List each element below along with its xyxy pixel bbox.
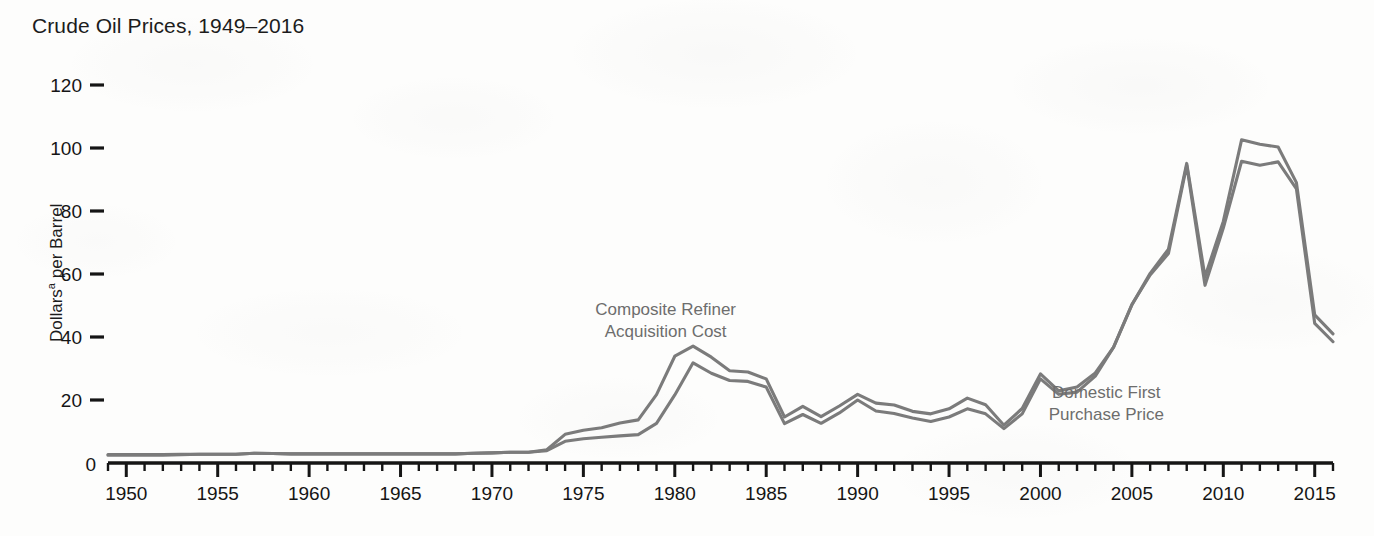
y-tick-label-zero: 0 — [85, 454, 96, 475]
series-annotation-label: Purchase Price — [1049, 405, 1164, 424]
x-tick-label: 1970 — [471, 483, 513, 504]
x-tick-label: 1975 — [562, 483, 604, 504]
y-tick-label: 60 — [61, 264, 82, 285]
y-tick-label: 100 — [50, 138, 82, 159]
x-tick-label: 2000 — [1019, 483, 1061, 504]
x-tick-label: 1980 — [654, 483, 696, 504]
series-annotation-label: Composite Refiner — [595, 300, 736, 319]
y-tick-label: 20 — [61, 390, 82, 411]
x-tick-label: 1955 — [197, 483, 239, 504]
x-tick-label: 2010 — [1202, 483, 1244, 504]
series-annotation-label: Acquisition Cost — [605, 322, 727, 341]
chart-annotations: Composite RefinerAcquisition CostDomesti… — [595, 300, 1164, 424]
x-tick-label: 1995 — [928, 483, 970, 504]
series-annotation-label: Domestic First — [1052, 383, 1161, 402]
y-tick-label: 40 — [61, 327, 82, 348]
x-tick-label: 2005 — [1111, 483, 1153, 504]
x-tick-label: 1965 — [379, 483, 421, 504]
x-tick-label: 1950 — [105, 483, 147, 504]
y-tick-label: 120 — [50, 75, 82, 96]
x-tick-label: 1985 — [745, 483, 787, 504]
chart-plot-area: 204060801001200 195019551960196519701975… — [0, 0, 1374, 536]
chart-figure: Crude Oil Prices, 1949–2016 Dollarsa per… — [0, 0, 1374, 536]
x-tick-label: 1960 — [288, 483, 330, 504]
x-tick-label: 2015 — [1294, 483, 1336, 504]
x-tick-label: 1990 — [836, 483, 878, 504]
y-tick-label: 80 — [61, 201, 82, 222]
y-axis-ticks: 204060801001200 — [50, 75, 104, 475]
